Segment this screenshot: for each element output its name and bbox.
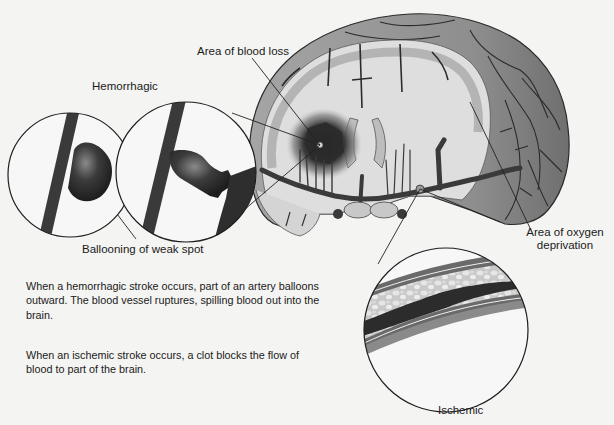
- ischemic-magnified-view: [350, 248, 540, 412]
- label-ischemic: Ischemic: [438, 404, 483, 417]
- label-area-of-blood-loss: Area of blood loss: [197, 45, 289, 58]
- label-area-of-oxygen-deprivation-line2: deprivation: [526, 239, 604, 252]
- hemorrhagic-magnified-view-1: [8, 100, 132, 250]
- hemorrhagic-magnified-view-2: [116, 96, 262, 260]
- label-ballooning-of-weak-spot: Ballooning of weak spot: [82, 243, 203, 256]
- brain-coronal-section: [249, 14, 569, 236]
- caption-hemorrhagic-stroke: When a hemorrhagic stroke occurs, part o…: [26, 279, 326, 322]
- caption-ischemic-stroke: When an ischemic stroke occurs, a clot b…: [26, 348, 326, 377]
- label-hemorrhagic: Hemorrhagic: [92, 80, 158, 93]
- label-area-of-oxygen-deprivation-line1: Area of oxygen: [526, 226, 604, 239]
- stroke-diagram: Area of blood loss Hemorrhagic Balloonin…: [0, 0, 614, 425]
- label-area-of-oxygen-deprivation: Area of oxygen deprivation: [526, 226, 604, 252]
